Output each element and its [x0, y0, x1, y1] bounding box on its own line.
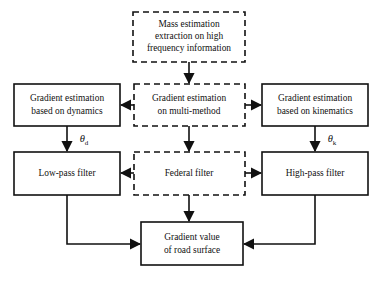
label-theta-k: θk — [328, 133, 337, 147]
gradient-dynamics-line1: Gradient estimation — [30, 93, 105, 103]
node-low-pass-filter: Low-pass filter — [14, 152, 120, 195]
node-gradient-kinematics: Gradient estimation based on kinematics — [262, 84, 368, 126]
high-pass-filter-label: High-pass filter — [286, 168, 345, 178]
low-pass-filter-label: Low-pass filter — [38, 168, 96, 178]
mass-estimation-line1: Mass estimation — [158, 19, 220, 29]
gradient-kinematics-line2: based on kinematics — [277, 106, 353, 116]
theta-d-subscript: d — [85, 139, 89, 147]
node-gradient-value: Gradient value of road surface — [141, 222, 243, 265]
gradient-dynamics-line2: based on dynamics — [31, 106, 103, 116]
gradient-kinematics-line1: Gradient estimation — [278, 93, 353, 103]
flowchart-canvas: Mass estimation extraction on high frequ… — [0, 0, 376, 282]
gradient-multimethod-line1: Gradient estimation — [152, 93, 227, 103]
node-gradient-multimethod: Gradient estimation on multi-method — [134, 84, 245, 126]
label-theta-d: θd — [80, 133, 89, 147]
federal-filter-label: Federal filter — [165, 168, 215, 178]
gradient-value-box — [141, 222, 243, 265]
gradient-dynamics-box — [14, 84, 120, 126]
gradient-value-line2: of road surface — [164, 245, 220, 255]
node-gradient-dynamics: Gradient estimation based on dynamics — [14, 84, 120, 126]
flowchart-diagram: Mass estimation extraction on high frequ… — [0, 0, 376, 282]
node-mass-estimation: Mass estimation extraction on high frequ… — [133, 12, 245, 62]
edge-lowpass-to-gradientvalue — [67, 195, 140, 244]
gradient-multimethod-line2: on multi-method — [158, 106, 221, 116]
svg-text:θk: θk — [328, 133, 337, 147]
gradient-kinematics-box — [262, 84, 368, 126]
mass-estimation-line3: frequency information — [147, 43, 231, 53]
mass-estimation-line2: extraction on high — [155, 31, 224, 41]
edge-highpass-to-gradientvalue — [244, 195, 315, 244]
gradient-value-line1: Gradient value — [164, 232, 219, 242]
node-high-pass-filter: High-pass filter — [262, 152, 368, 195]
svg-text:θd: θd — [80, 133, 89, 147]
gradient-multimethod-box — [134, 84, 245, 126]
node-federal-filter: Federal filter — [134, 152, 245, 195]
theta-k-subscript: k — [333, 139, 337, 147]
